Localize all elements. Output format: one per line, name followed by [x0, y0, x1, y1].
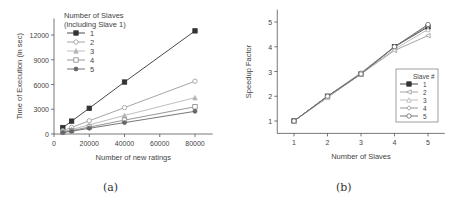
legend-title: Slave # [413, 73, 435, 80]
data-point [392, 45, 396, 49]
y-axis-label: Time of Execution (in sec) [15, 33, 24, 120]
data-point [193, 109, 197, 113]
y-tick-label: 12000 [30, 32, 50, 39]
y-axis-label: Speedup Factor [244, 44, 253, 98]
x-tick-label: 0 [52, 140, 56, 147]
legend-label: 3 [423, 97, 427, 104]
data-point [193, 96, 197, 100]
data-point [61, 131, 65, 135]
legend-marker [74, 67, 78, 71]
y-tick-label: 6000 [33, 82, 49, 89]
data-point [359, 72, 363, 76]
legend-item-2: 2 [67, 38, 94, 47]
legend: Number of Slaves(including Slave 1)12345 [64, 11, 126, 74]
x-tick-label: 2 [326, 139, 330, 146]
legend-item-4: 4 [67, 56, 94, 65]
legend-label: 2 [423, 89, 427, 96]
y-tick-label: 3 [268, 69, 272, 76]
data-point [193, 29, 197, 33]
legend-marker [74, 40, 78, 44]
data-point [122, 105, 126, 109]
x-tick-label: 4 [393, 139, 397, 146]
x-axis-label: Number of Slaves [331, 152, 391, 161]
chart-b-plot: 1234512345Number of SlavesSpeedup Factor… [235, 0, 461, 170]
legend-label: 5 [423, 113, 427, 120]
x-tick-label: 3 [359, 139, 363, 146]
legend-title: Number of Slaves [64, 11, 124, 20]
legend-marker [74, 49, 78, 53]
x-tick-label: 60000 [150, 140, 170, 147]
series-5 [61, 109, 197, 134]
legend-label: 1 [90, 29, 94, 38]
series-line [63, 81, 195, 131]
legend-marker [74, 58, 78, 62]
legend-label: 3 [90, 47, 94, 56]
x-tick-label: 80000 [185, 140, 205, 147]
data-point [123, 121, 127, 125]
legend-marker [74, 31, 78, 35]
chart-a: 020000400006000080000030006000900012000N… [0, 0, 230, 170]
legend-label: 1 [423, 81, 427, 88]
y-tick-label: 0 [45, 131, 49, 138]
y-tick-label: 1 [268, 118, 272, 125]
data-point [193, 79, 197, 83]
x-tick-label: 20000 [80, 140, 100, 147]
legend-item-5: 5 [67, 65, 94, 74]
data-point [292, 119, 296, 123]
x-tick-label: 1 [292, 139, 296, 146]
x-axis-label: Number of new ratings [96, 153, 172, 162]
legend-item-1: 1 [67, 29, 94, 38]
legend-label: 4 [90, 56, 94, 65]
x-tick-label: 40000 [115, 140, 135, 147]
data-point [426, 22, 430, 26]
y-tick-label: 2 [268, 93, 272, 100]
chart-b: 1234512345Number of SlavesSpeedup Factor… [235, 0, 461, 170]
caption-b: (b) [336, 181, 352, 194]
series-2 [61, 79, 198, 133]
data-point [87, 126, 91, 130]
legend-marker [407, 82, 411, 86]
y-tick-label: 4 [268, 44, 272, 51]
y-tick-label: 5 [268, 19, 272, 26]
legend-label: 5 [90, 65, 94, 74]
data-point [70, 129, 74, 133]
data-point [325, 94, 329, 98]
legend: Slave #12345 [396, 69, 438, 122]
chart-a-plot: 020000400006000080000030006000900012000N… [0, 0, 230, 170]
data-point [426, 33, 430, 37]
legend-title: (including Slave 1) [64, 20, 126, 29]
legend-label: 2 [90, 38, 94, 47]
data-point [87, 106, 91, 110]
legend-item-3: 3 [67, 47, 94, 56]
data-point [122, 113, 126, 117]
legend-label: 4 [423, 105, 427, 112]
data-point [193, 105, 197, 109]
legend-marker [407, 114, 411, 118]
y-tick-label: 9000 [33, 57, 49, 64]
data-point [122, 80, 126, 84]
data-point [69, 119, 73, 123]
series-line [63, 107, 195, 132]
y-tick-label: 3000 [33, 106, 49, 113]
series-line [63, 31, 195, 128]
caption-a: (a) [103, 181, 118, 194]
x-tick-label: 5 [426, 139, 430, 146]
